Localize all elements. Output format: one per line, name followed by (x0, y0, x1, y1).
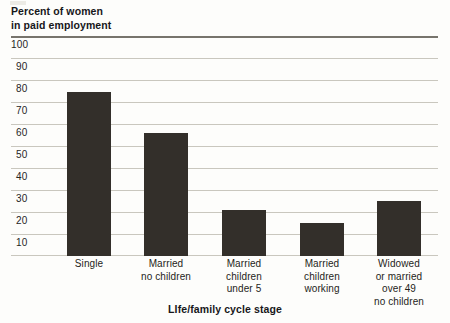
xtick-label-single: Single (49, 258, 129, 271)
xtick-line: Married (204, 258, 284, 271)
bar-married-children-under-5 (222, 210, 266, 256)
bars-layer (11, 36, 438, 256)
xtick-line: Married (124, 258, 208, 271)
bar-married-children-working (300, 223, 344, 256)
xtick-label-married-no-children: Married no children (124, 258, 208, 283)
bar-married-no-children (144, 133, 188, 256)
xtick-line: working (282, 283, 362, 296)
xtick-label-married-children-under-5: Married children under 5 (204, 258, 284, 296)
xtick-label-widowed-or-married-over-49: Widowed or married over 49 no children (356, 258, 442, 308)
bar-widowed-or-married-over-49 (377, 201, 421, 256)
y-axis-title: Percent of women in paid employment (11, 5, 161, 32)
y-axis-title-line: in paid employment (11, 19, 161, 33)
xtick-line: Married (282, 258, 362, 271)
xtick-line: Widowed (356, 258, 442, 271)
bar-chart-figure: Percent of women in paid employment 100 … (0, 0, 450, 323)
xtick-line: Single (49, 258, 129, 271)
bar-single (67, 92, 111, 256)
plot-area: 100 90 80 70 60 50 40 30 20 10 (11, 36, 438, 256)
x-axis-title: LIfe/family cycle stage (0, 303, 450, 315)
xtick-line: under 5 (204, 283, 284, 296)
y-axis-title-line: Percent of women (11, 5, 161, 19)
xtick-line: over 49 (356, 283, 442, 296)
x-tick-labels: Single Married no children Married child… (11, 258, 438, 306)
xtick-line: no children (124, 271, 208, 284)
xtick-line: or married (356, 271, 442, 284)
xtick-label-married-children-working: Married children working (282, 258, 362, 296)
xtick-line: children (282, 271, 362, 284)
xtick-line: children (204, 271, 284, 284)
